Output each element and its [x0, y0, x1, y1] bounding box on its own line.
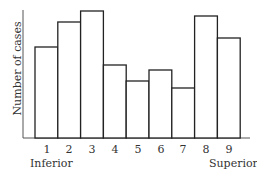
y-axis-label: Number of cases — [11, 26, 24, 116]
bar-9 — [217, 38, 240, 138]
histogram-chart: Number of cases 1 2 3 4 5 6 7 8 9 Inferi… — [0, 0, 257, 176]
bar-7 — [172, 88, 195, 138]
bar-4 — [103, 65, 126, 138]
bar-6 — [149, 70, 172, 138]
bar-5 — [126, 81, 149, 138]
x-tick-label: 1 — [37, 143, 57, 156]
x-tick-label: 5 — [128, 143, 148, 156]
bar-2 — [58, 22, 81, 138]
x-tick-label: 6 — [151, 143, 171, 156]
superior-label: Superior — [209, 157, 257, 170]
bar-8 — [195, 16, 218, 138]
inferior-label: Inferior — [30, 157, 73, 170]
x-tick-label: 7 — [173, 143, 193, 156]
bar-1 — [35, 47, 58, 138]
x-tick-label: 2 — [59, 143, 79, 156]
bars-group — [35, 11, 240, 138]
bar-3 — [81, 11, 104, 138]
x-tick-label: 8 — [196, 143, 216, 156]
x-tick-label: 3 — [82, 143, 102, 156]
x-tick-label: 4 — [105, 143, 125, 156]
x-tick-label: 9 — [219, 143, 239, 156]
